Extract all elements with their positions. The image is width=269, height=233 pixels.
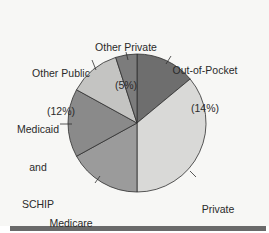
leader-line <box>190 171 196 177</box>
label-private-insurance-line1: Private <box>190 203 246 216</box>
label-private-insurance: Private Insurance (36%) <box>190 178 246 233</box>
label-medicare-name: Medicare <box>46 217 96 230</box>
label-medicaid-line1: Medicaid <box>14 123 62 136</box>
label-out-of-pocket: Out-of-Pocket (14%) <box>172 39 238 127</box>
label-medicaid-line2: and <box>14 161 62 174</box>
label-medicare: Medicare (17%) <box>46 192 96 233</box>
label-other-private-name: Other Private <box>88 41 164 54</box>
label-other-private-pct: (5%) <box>88 79 164 92</box>
label-other-public-name: Other Public <box>28 67 94 80</box>
label-other-private: Other Private (5%) <box>88 16 164 104</box>
label-out-of-pocket-pct: (14%) <box>172 102 238 115</box>
label-out-of-pocket-name: Out-of-Pocket <box>172 64 238 77</box>
